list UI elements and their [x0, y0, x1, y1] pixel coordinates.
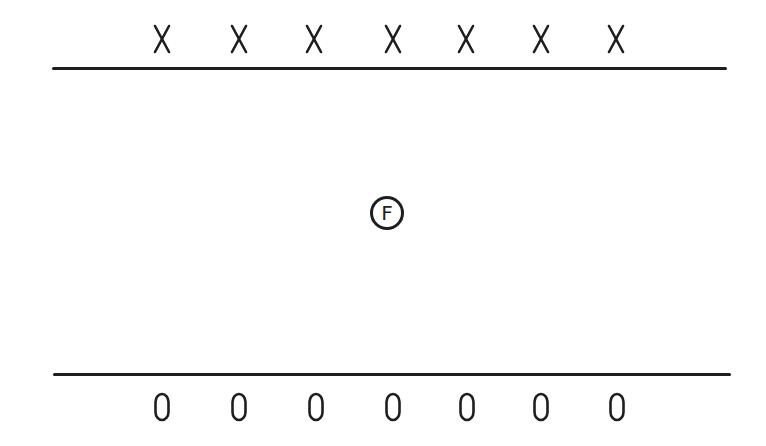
- o-mark-icon: [378, 392, 408, 422]
- x-mark-icon: [224, 24, 254, 54]
- o-mark-icon: [224, 392, 254, 422]
- x-mark-icon: [526, 24, 556, 54]
- o-mark-icon: [452, 392, 482, 422]
- o-mark-icon: [602, 392, 632, 422]
- o-mark-icon: [526, 392, 556, 422]
- x-mark-icon: [378, 24, 408, 54]
- x-mark-icon: [451, 24, 481, 54]
- f-circle-marker: F: [370, 196, 404, 230]
- x-mark-icon: [601, 24, 631, 54]
- bottom-line: [53, 373, 731, 376]
- x-mark-icon: [299, 24, 329, 54]
- o-mark-icon: [147, 392, 177, 422]
- f-marker-label: F: [381, 203, 393, 223]
- diagram-canvas: F: [0, 0, 766, 446]
- o-mark-icon: [301, 392, 331, 422]
- x-mark-icon: [147, 24, 177, 54]
- top-line: [52, 67, 727, 70]
